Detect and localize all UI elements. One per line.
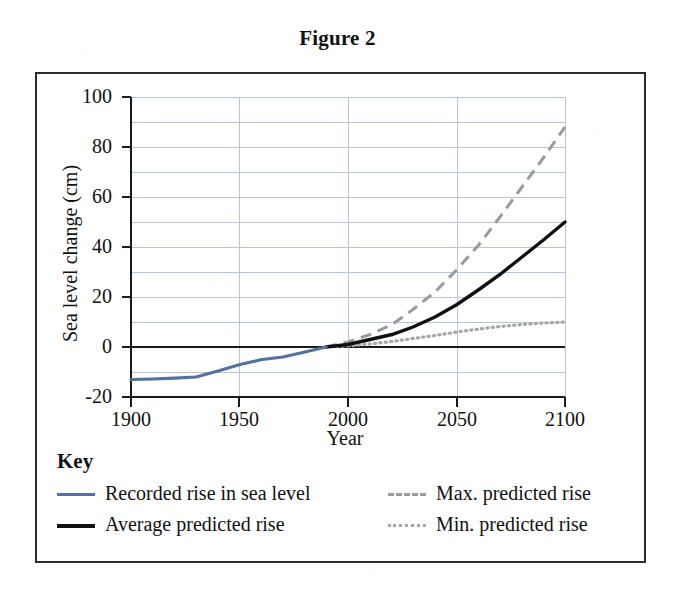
x-tick-label-2000: 2000 (308, 408, 388, 431)
legend-label-recorded-rise: Recorded rise in sea level (105, 482, 310, 505)
series-min-predicted-rise (326, 322, 565, 347)
y-tick-label-40: 40 (56, 235, 112, 258)
legend-label-min-predicted-rise: Min. predicted rise (436, 513, 588, 536)
series-average-predicted-rise (326, 222, 565, 347)
legend-label-average-predicted-rise: Average predicted rise (105, 513, 285, 536)
y-tick-label-neg20: -20 (56, 385, 112, 408)
series-max-predicted-rise (326, 127, 565, 347)
legend-label-max-predicted-rise: Max. predicted rise (436, 482, 591, 505)
legend-title: Key (57, 449, 93, 474)
x-tick-label-1900: 1900 (91, 408, 171, 431)
series-recorded-rise (131, 347, 326, 380)
legend-swatch-solid-black-icon (57, 524, 95, 528)
y-tick-label-100: 100 (56, 85, 112, 108)
legend-swatch-dotted-gray-icon (388, 524, 426, 527)
y-tick-label-0: 0 (56, 335, 112, 358)
y-tick-label-60: 60 (56, 185, 112, 208)
y-axis-ticks (122, 97, 131, 397)
legend-swatch-dashed-gray-icon (388, 493, 426, 496)
y-tick-label-20: 20 (56, 285, 112, 308)
x-tick-label-2050: 2050 (417, 408, 497, 431)
x-axis-ticks (131, 397, 565, 407)
x-tick-label-2100: 2100 (525, 408, 605, 431)
legend-swatch-solid-blue-icon (57, 493, 95, 496)
x-tick-label-1950: 1950 (199, 408, 279, 431)
y-tick-label-80: 80 (56, 135, 112, 158)
